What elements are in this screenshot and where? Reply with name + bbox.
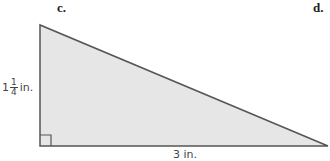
- height-fraction: 14: [10, 78, 18, 97]
- height-label: 114in.: [2, 78, 33, 97]
- base-label: 3 in.: [173, 148, 197, 161]
- triangle: [40, 25, 328, 146]
- height-whole: 1: [2, 81, 9, 94]
- right-triangle-figure: [0, 0, 330, 161]
- height-unit: in.: [20, 81, 34, 94]
- fraction-denominator: 4: [10, 88, 18, 97]
